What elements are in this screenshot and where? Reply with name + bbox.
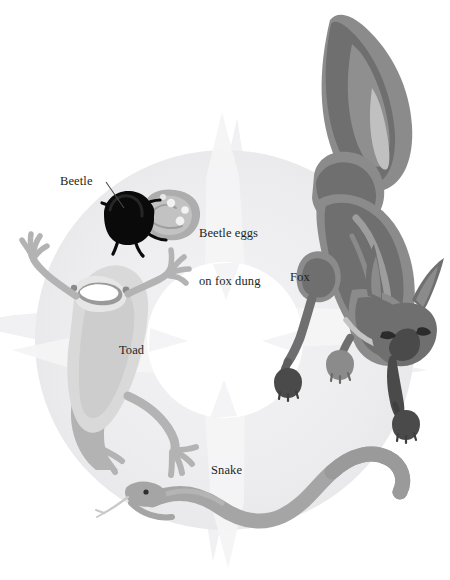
label-toad: Toad (119, 342, 144, 358)
label-snake: Snake (211, 462, 242, 478)
beetle-egg (176, 217, 185, 226)
label-beetle: Beetle (60, 173, 93, 189)
label-beetle-eggs-line2: on fox dung (199, 273, 261, 289)
cycle-diagram: Beetle Beetle eggs on fox dung Fox Toad … (0, 0, 450, 580)
label-beetle-eggs-on-fox-dung: Beetle eggs on fox dung (199, 192, 261, 322)
beetle-egg (167, 199, 175, 207)
beetle-egg (181, 206, 189, 214)
label-fox: Fox (290, 269, 310, 285)
label-beetle-eggs-line1: Beetle eggs (199, 225, 261, 241)
